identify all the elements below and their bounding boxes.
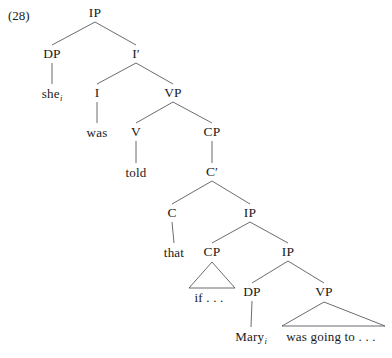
tree-node-label: CP [204,124,221,139]
tree-node-ibar: I′ [132,47,139,61]
coindex-subscript: i [265,336,268,346]
tree-node-label: was [87,125,108,140]
tree-node-told: told [125,166,146,179]
tree-node-cp-1: CP [204,125,221,139]
tree-node-label: VP [315,284,333,299]
tree-node-label: CP [204,244,221,259]
tree-node-label: DP [243,284,261,299]
tree-node-she: shei [42,87,63,100]
tree-node-going-ellipsis: was going to . . . [286,330,376,343]
tree-node-ip-3: IP [282,245,294,259]
tree-node-label: VP [164,85,182,100]
tree-node-cbar: C′ [206,165,218,179]
tree-node-dp-2: DP [243,285,261,299]
tree-node-v-head: V [131,125,141,139]
tree-node-label: IP [282,244,294,259]
tree-node-label: DP [43,46,61,61]
tree-node-if-ellipsis: if . . . [194,291,223,304]
tree-node-mary: Maryi [235,330,267,343]
tree-node-label: I [95,85,100,100]
tree-node-label: told [125,165,146,180]
tree-node-label: was going to . . . [286,329,376,344]
tree-node-label: Mary [235,329,264,344]
tree-node-label: C′ [206,164,218,179]
tree-node-layer: (28) IPDPI′sheiIVPwasVCPtoldC′CIPthatCPI… [0,0,392,358]
tree-node-label: that [164,245,184,260]
example-number: (28) [8,8,30,24]
tree-node-cp-2: CP [204,245,221,259]
tree-node-label: I′ [132,46,139,61]
tree-node-vp-1: VP [164,86,182,100]
tree-node-dp-1: DP [43,47,61,61]
tree-node-label: she [42,86,60,101]
tree-node-ip-root: IP [89,6,101,20]
tree-node-ip-2: IP [244,206,256,220]
tree-node-that: that [164,246,184,259]
tree-node-label: if . . . [194,290,223,305]
tree-node-vp-2: VP [315,285,333,299]
tree-node-c-head: C [167,206,176,220]
tree-node-label: V [131,124,141,139]
tree-node-label: IP [89,5,101,20]
tree-node-label: C [167,205,176,220]
tree-node-was: was [87,126,108,139]
coindex-subscript: i [60,93,63,103]
tree-node-i-head: I [95,86,100,100]
tree-node-label: IP [244,205,256,220]
